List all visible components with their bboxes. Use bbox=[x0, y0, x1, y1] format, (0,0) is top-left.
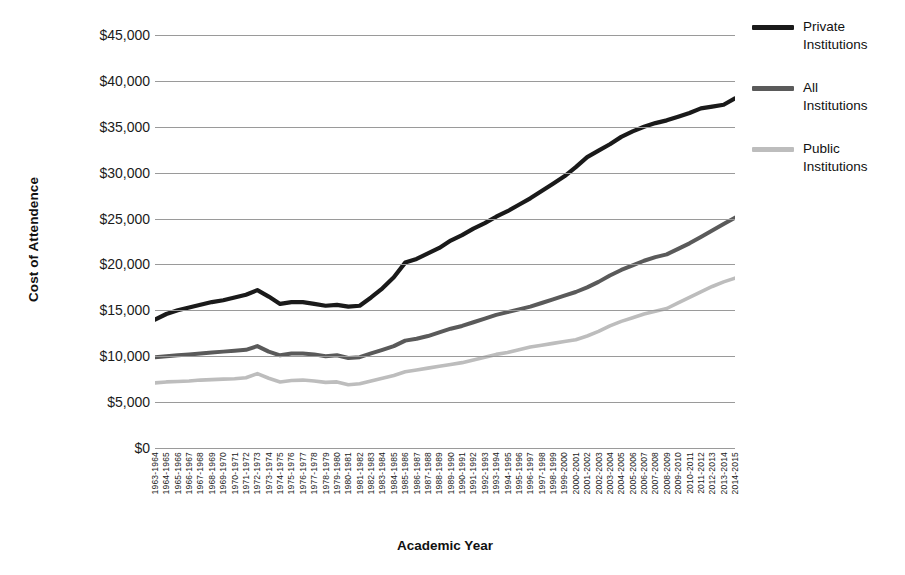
y-axis-tick-label: $5,000 bbox=[50, 394, 150, 410]
y-axis-tick-label: $0 bbox=[50, 440, 150, 456]
x-axis-tick-label: 1971-1972 bbox=[241, 452, 251, 494]
x-axis-tick-label: 1972-1973 bbox=[252, 452, 262, 494]
y-axis-tick-label: $40,000 bbox=[50, 73, 150, 89]
y-axis-tick-label: $45,000 bbox=[50, 27, 150, 43]
gridline bbox=[155, 356, 735, 357]
x-axis-tick-label: 2003-2004 bbox=[605, 452, 615, 494]
x-axis-tick-label: 2007-2008 bbox=[650, 452, 660, 494]
gridline bbox=[155, 127, 735, 128]
y-axis-tick-label: $20,000 bbox=[50, 256, 150, 272]
y-axis-title: Cost of Attendence bbox=[26, 145, 41, 335]
x-axis-tick-label: 1988-1989 bbox=[434, 452, 444, 494]
x-axis-title: Academic Year bbox=[155, 538, 735, 553]
x-axis-tick-label: 1987-1988 bbox=[423, 452, 433, 494]
x-axis-tick-label: 1979-1980 bbox=[332, 452, 342, 494]
gridline bbox=[155, 310, 735, 311]
x-axis-tick-label: 1990-1991 bbox=[457, 452, 467, 494]
x-axis-tick-label: 1977-1978 bbox=[309, 452, 319, 494]
legend-label: PrivateInstitutions bbox=[803, 18, 868, 53]
series-line bbox=[155, 218, 735, 358]
y-axis-tick-label: $15,000 bbox=[50, 302, 150, 318]
x-axis-tick-label: 1986-1987 bbox=[412, 452, 422, 494]
x-axis-tick-label: 1964-1965 bbox=[161, 452, 171, 494]
legend-item[interactable]: AllInstitutions bbox=[752, 79, 902, 114]
x-axis-tick-label: 1992-1993 bbox=[480, 452, 490, 494]
x-axis-tick-label: 1978-1979 bbox=[321, 452, 331, 494]
x-axis-tick-label: 2011-2012 bbox=[696, 452, 706, 494]
x-axis-tick-label: 1983-1984 bbox=[377, 452, 387, 494]
y-axis-tick-label: $25,000 bbox=[50, 211, 150, 227]
x-axis-tick-label: 1997-1998 bbox=[537, 452, 547, 494]
x-axis-tick-label: 1973-1974 bbox=[264, 452, 274, 494]
x-axis-tick-label: 2006-2007 bbox=[639, 452, 649, 494]
legend-item[interactable]: PublicInstitutions bbox=[752, 140, 902, 175]
line-chart: Cost of Attendence $0$5,000$10,000$15,00… bbox=[0, 0, 905, 575]
x-axis-tick-label: 1996-1997 bbox=[525, 452, 535, 494]
x-axis-tick-label: 1982-1983 bbox=[366, 452, 376, 494]
x-axis-tick-label: 2005-2006 bbox=[628, 452, 638, 494]
x-axis-tick-label: 2014-2015 bbox=[730, 452, 740, 494]
x-axis-tick-label: 1984-1985 bbox=[389, 452, 399, 494]
x-axis-tick-label: 1989-1990 bbox=[446, 452, 456, 494]
legend-swatch bbox=[752, 147, 794, 152]
gridline bbox=[155, 35, 735, 36]
gridline bbox=[155, 448, 735, 449]
x-axis-tick-label: 1995-1996 bbox=[514, 452, 524, 494]
y-axis-tick-label: $30,000 bbox=[50, 165, 150, 181]
gridline bbox=[155, 264, 735, 265]
gridline bbox=[155, 81, 735, 82]
x-axis-tick-label: 2000-2001 bbox=[571, 452, 581, 494]
x-axis-tick-label: 2008-2009 bbox=[662, 452, 672, 494]
x-axis-tick-label: 1966-1967 bbox=[184, 452, 194, 494]
y-axis-tick-label: $35,000 bbox=[50, 119, 150, 135]
x-axis-tick-label: 1965-1966 bbox=[173, 452, 183, 494]
legend-swatch bbox=[752, 25, 794, 30]
x-axis-tick-label: 1985-1986 bbox=[400, 452, 410, 494]
x-axis-tick-label: 2004-2005 bbox=[616, 452, 626, 494]
chart-legend: PrivateInstitutionsAllInstitutionsPublic… bbox=[752, 18, 902, 201]
legend-label: PublicInstitutions bbox=[803, 140, 868, 175]
x-axis-tick-label: 2012-2013 bbox=[707, 452, 717, 494]
legend-swatch bbox=[752, 86, 794, 91]
x-axis-tick-label: 1981-1982 bbox=[355, 452, 365, 494]
x-axis-tick-label: 1963-1964 bbox=[150, 452, 160, 494]
x-axis-tick-label: 1975-1976 bbox=[286, 452, 296, 494]
x-axis-tick-label: 1968-1969 bbox=[207, 452, 217, 494]
gridline bbox=[155, 173, 735, 174]
x-axis-tick-label: 1967-1968 bbox=[195, 452, 205, 494]
gridline bbox=[155, 402, 735, 403]
x-axis-tick-label: 1991-1992 bbox=[468, 452, 478, 494]
x-axis-tick-label: 2002-2003 bbox=[594, 452, 604, 494]
x-axis-tick-label: 1980-1981 bbox=[343, 452, 353, 494]
x-axis-tick-label: 2010-2011 bbox=[685, 452, 695, 494]
x-axis-tick-label: 1998-1999 bbox=[548, 452, 558, 494]
legend-label: AllInstitutions bbox=[803, 79, 868, 114]
x-axis-tick-label: 1970-1971 bbox=[230, 452, 240, 494]
series-line bbox=[155, 98, 735, 319]
x-axis-tick-label: 1974-1975 bbox=[275, 452, 285, 494]
y-axis-tick-label: $10,000 bbox=[50, 348, 150, 364]
legend-item[interactable]: PrivateInstitutions bbox=[752, 18, 902, 53]
x-axis-tick-label: 1993-1994 bbox=[491, 452, 501, 494]
x-axis-tick-label: 2001-2002 bbox=[582, 452, 592, 494]
x-axis-tick-label: 1994-1995 bbox=[503, 452, 513, 494]
x-axis-tick-label: 1976-1977 bbox=[298, 452, 308, 494]
x-axis-tick-label: 1969-1970 bbox=[218, 452, 228, 494]
gridline bbox=[155, 219, 735, 220]
y-axis-tick-labels: $0$5,000$10,000$15,000$20,000$25,000$30,… bbox=[48, 0, 150, 575]
x-axis-tick-label: 2013-2014 bbox=[719, 452, 729, 494]
x-axis-tick-label: 1999-2000 bbox=[559, 452, 569, 494]
x-axis-tick-label: 2009-2010 bbox=[673, 452, 683, 494]
